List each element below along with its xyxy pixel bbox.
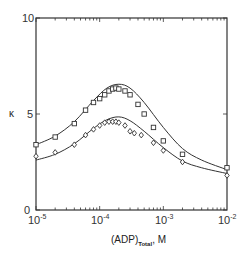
plot-frame bbox=[36, 18, 227, 210]
y-tick-labels: 0 5 10 bbox=[22, 12, 34, 216]
square-marker bbox=[83, 108, 87, 112]
square-marker bbox=[103, 93, 107, 97]
x-tick-label-1e-2: 10-2 bbox=[218, 213, 237, 226]
plot-border bbox=[36, 18, 227, 210]
square-marker bbox=[136, 102, 140, 106]
square-marker bbox=[225, 166, 229, 170]
data-points bbox=[34, 86, 229, 178]
diamond-marker bbox=[103, 120, 107, 126]
square-marker bbox=[151, 125, 155, 129]
square-marker bbox=[128, 93, 132, 97]
axis-ticks bbox=[36, 18, 227, 210]
diamond-marker bbox=[139, 132, 143, 138]
x-tick-labels: 10-5 10-4 10-3 10-2 bbox=[28, 213, 237, 226]
x-axis-label: (ADP)Total, M bbox=[111, 234, 166, 247]
lower-fit bbox=[36, 117, 227, 174]
y-tick-label-5: 5 bbox=[27, 108, 33, 120]
square-marker bbox=[123, 89, 127, 93]
diamond-marker bbox=[123, 123, 127, 129]
diamond-marker bbox=[34, 153, 38, 159]
y-axis-label: κ bbox=[9, 108, 15, 119]
diamond-marker bbox=[53, 150, 57, 156]
square-marker bbox=[34, 143, 38, 147]
square-marker bbox=[91, 100, 95, 104]
square-marker bbox=[180, 152, 184, 156]
fit-curves bbox=[36, 84, 227, 173]
square-marker bbox=[97, 96, 101, 100]
chart: 0 5 10 10-5 10-4 10-3 10-2 (ADP)Total, M… bbox=[0, 0, 251, 254]
square-marker bbox=[161, 139, 165, 143]
square-marker bbox=[72, 121, 76, 125]
x-tick-label-1e-4: 10-4 bbox=[91, 213, 110, 226]
x-tick-label-1e-3: 10-3 bbox=[155, 213, 174, 226]
x-tick-label-1e-5: 10-5 bbox=[28, 213, 47, 226]
square-marker bbox=[53, 135, 57, 139]
y-tick-label-10: 10 bbox=[22, 12, 34, 24]
square-marker bbox=[142, 112, 146, 116]
square-marker bbox=[117, 87, 121, 91]
